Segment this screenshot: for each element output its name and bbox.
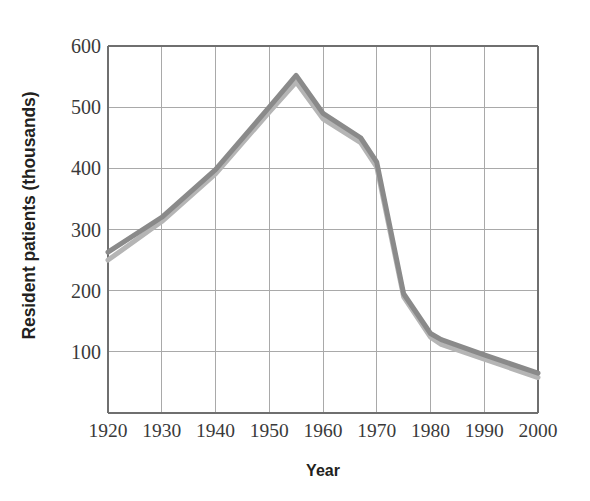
x-tick-label: 1960 bbox=[304, 420, 343, 442]
y-tick-label: 200 bbox=[55, 279, 101, 302]
x-tick-label: 2000 bbox=[519, 420, 558, 442]
x-tick-label: 1980 bbox=[411, 420, 450, 442]
x-axis-title: Year bbox=[108, 462, 538, 480]
y-tick-label: 600 bbox=[55, 35, 101, 58]
x-axis-tick-labels: 192019301940195019601970198019902000 bbox=[0, 420, 590, 450]
chart-figure: 100200300400500600 192019301940195019601… bbox=[0, 0, 590, 501]
x-tick-label: 1950 bbox=[250, 420, 289, 442]
y-tick-label: 500 bbox=[55, 96, 101, 119]
y-tick-label: 100 bbox=[55, 340, 101, 363]
x-tick-label: 1930 bbox=[142, 420, 181, 442]
y-tick-label: 400 bbox=[55, 157, 101, 180]
x-tick-label: 1970 bbox=[357, 420, 396, 442]
x-tick-label: 1940 bbox=[196, 420, 235, 442]
y-tick-label: 300 bbox=[55, 218, 101, 241]
x-tick-label: 1920 bbox=[89, 420, 128, 442]
x-tick-label: 1990 bbox=[465, 420, 504, 442]
